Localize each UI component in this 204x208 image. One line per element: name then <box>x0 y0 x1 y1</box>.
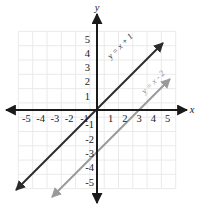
x-tick-labels-negative: -5 -4 -3 -2 -1 <box>22 113 89 124</box>
y-tick-label: 5 <box>85 34 90 45</box>
x-tick-label: -5 <box>22 113 31 124</box>
y-tick-label: -5 <box>85 177 94 188</box>
x-tick-label: -3 <box>51 113 60 124</box>
y-tick-label: 3 <box>85 62 90 73</box>
coordinate-plane: x y -5 -4 -3 -2 -1 1 2 3 4 5 5 4 3 2 1 -… <box>0 0 204 208</box>
y-tick-label: -2 <box>85 134 94 145</box>
x-tick-label: -2 <box>65 113 74 124</box>
y-tick-label: 2 <box>85 76 90 87</box>
equation-label-line-2: y = x - 2 <box>138 68 167 97</box>
x-axis-label: x <box>189 104 195 115</box>
x-tick-label: 5 <box>165 113 170 124</box>
y-tick-label: -1 <box>85 119 94 130</box>
y-axis-label: y <box>94 2 100 13</box>
equation-label-line-1: y = x + 1 <box>104 31 134 61</box>
y-tick-label: -4 <box>85 162 94 173</box>
y-tick-label: -3 <box>85 148 94 159</box>
line-y-equals-x-minus-2 <box>52 79 170 197</box>
graph-figure: x y -5 -4 -3 -2 -1 1 2 3 4 5 5 4 3 2 1 -… <box>0 0 204 208</box>
x-tick-label: 3 <box>136 113 141 124</box>
y-tick-labels-negative: -1 -2 -3 -4 -5 <box>85 119 94 187</box>
y-tick-labels-positive: 5 4 3 2 1 <box>85 34 91 102</box>
x-tick-label: -4 <box>36 113 45 124</box>
y-tick-label: 4 <box>85 48 91 59</box>
x-tick-label: 1 <box>108 113 113 124</box>
y-tick-label: 1 <box>85 91 90 102</box>
x-tick-label: 2 <box>122 113 127 124</box>
x-tick-label: 4 <box>151 113 157 124</box>
